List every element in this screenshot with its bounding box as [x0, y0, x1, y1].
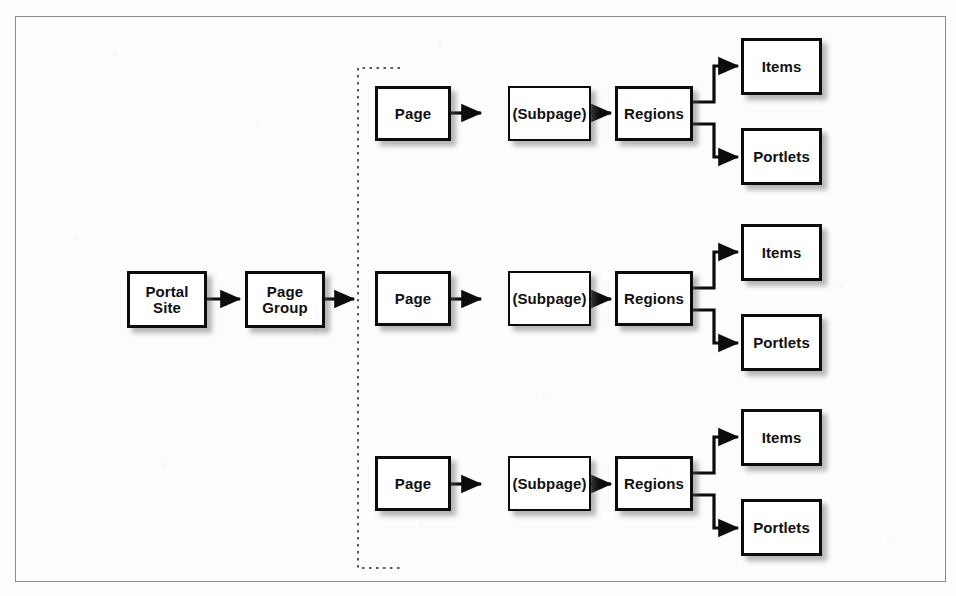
node-page-row1[interactable]: Page	[375, 86, 451, 141]
node-page-group-label: PageGroup	[259, 284, 311, 316]
node-page-row3[interactable]: Page	[375, 456, 451, 511]
node-regions-row2-label: Regions	[621, 291, 687, 307]
node-items-row2-label: Items	[759, 245, 805, 261]
node-items-row1-label: Items	[759, 59, 805, 75]
node-subpage-row2-label: (Subpage)	[509, 291, 589, 307]
node-portal-site[interactable]: PortalSite	[127, 271, 207, 328]
node-page-group[interactable]: PageGroup	[245, 271, 325, 328]
node-page-row2[interactable]: Page	[375, 271, 451, 326]
node-portlets-row1[interactable]: Portlets	[741, 128, 822, 185]
node-portal-site-label: PortalSite	[142, 284, 191, 316]
node-items-row1[interactable]: Items	[741, 38, 822, 95]
node-regions-row2[interactable]: Regions	[615, 271, 693, 326]
node-subpage-row3-label: (Subpage)	[509, 476, 589, 492]
node-subpage-row2[interactable]: (Subpage)	[508, 271, 591, 326]
node-subpage-row3[interactable]: (Subpage)	[508, 456, 591, 511]
node-portlets-row3-label: Portlets	[750, 520, 813, 536]
node-portlets-row2[interactable]: Portlets	[741, 314, 822, 371]
node-portlets-row2-label: Portlets	[750, 335, 813, 351]
node-page-row1-label: Page	[392, 106, 434, 122]
node-page-row2-label: Page	[392, 291, 434, 307]
node-regions-row1-label: Regions	[621, 106, 687, 122]
figure-canvas: PortalSite PageGroup Page (Subpage) Regi…	[0, 0, 956, 596]
node-regions-row1[interactable]: Regions	[615, 86, 693, 141]
node-portlets-row1-label: Portlets	[750, 149, 813, 165]
node-items-row2[interactable]: Items	[741, 224, 822, 281]
node-items-row3-label: Items	[759, 430, 805, 446]
node-items-row3[interactable]: Items	[741, 409, 822, 466]
node-subpage-row1[interactable]: (Subpage)	[508, 86, 591, 141]
node-regions-row3[interactable]: Regions	[615, 456, 693, 511]
node-page-row3-label: Page	[392, 476, 434, 492]
node-subpage-row1-label: (Subpage)	[509, 106, 589, 122]
node-portlets-row3[interactable]: Portlets	[741, 499, 822, 556]
node-regions-row3-label: Regions	[621, 476, 687, 492]
